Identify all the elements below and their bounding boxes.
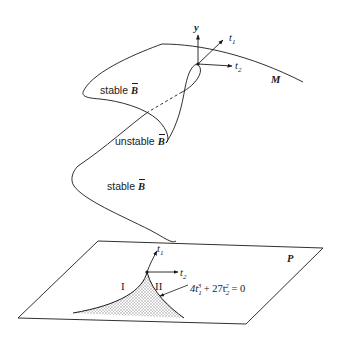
surface-m-boundary	[162, 44, 303, 82]
plane-p-label: P	[287, 254, 293, 265]
eq-term1: 4t	[190, 283, 198, 294]
fold-loop	[166, 64, 197, 143]
lower-t1-label: t1	[157, 244, 163, 255]
upper-t2-subscript: 2	[238, 66, 242, 74]
eq-term2: + 27t	[201, 283, 226, 294]
b-bar-symbol-middle: B	[158, 137, 165, 148]
region-i-label: I	[121, 281, 125, 292]
b-bar-symbol-upper: B	[131, 86, 138, 97]
stable-lower-label: stable B	[107, 181, 145, 193]
lower-t1-axis	[147, 251, 157, 272]
upper-y-label: y	[194, 23, 199, 34]
eq-rhs: = 0	[229, 283, 245, 294]
diagram-drawing	[0, 0, 340, 344]
stable-lower-sheet	[72, 166, 176, 242]
lower-t2-label: t2	[180, 268, 186, 279]
hidden-fold-line	[148, 92, 182, 112]
stable-lower-text: stable	[107, 180, 135, 192]
upper-t1-axis	[198, 40, 223, 64]
surface-m-label: M	[271, 75, 280, 86]
stable-upper-text: stable	[100, 84, 128, 96]
upper-t2-label: t2	[235, 61, 241, 72]
b-bar-symbol-lower: B	[138, 182, 145, 193]
unstable-text: unstable	[115, 135, 155, 147]
upper-t1-subscript: 1	[232, 38, 236, 46]
lower-t2-subscript: 2	[183, 273, 187, 281]
equation-leader	[160, 285, 188, 296]
upper-t2-axis	[198, 64, 232, 66]
cusp-equation: 4t13 + 27t22 = 0	[190, 284, 245, 295]
upper-t1-label: t1	[229, 33, 235, 44]
unstable-label: unstable B	[115, 136, 165, 148]
region-ii-label: II	[155, 281, 162, 292]
cusp-catastrophe-diagram: y t1 t2 M stable B unstable B stable B P…	[0, 0, 340, 344]
stable-upper-label: stable B	[100, 85, 138, 97]
lower-t1-subscript: 1	[160, 249, 164, 257]
